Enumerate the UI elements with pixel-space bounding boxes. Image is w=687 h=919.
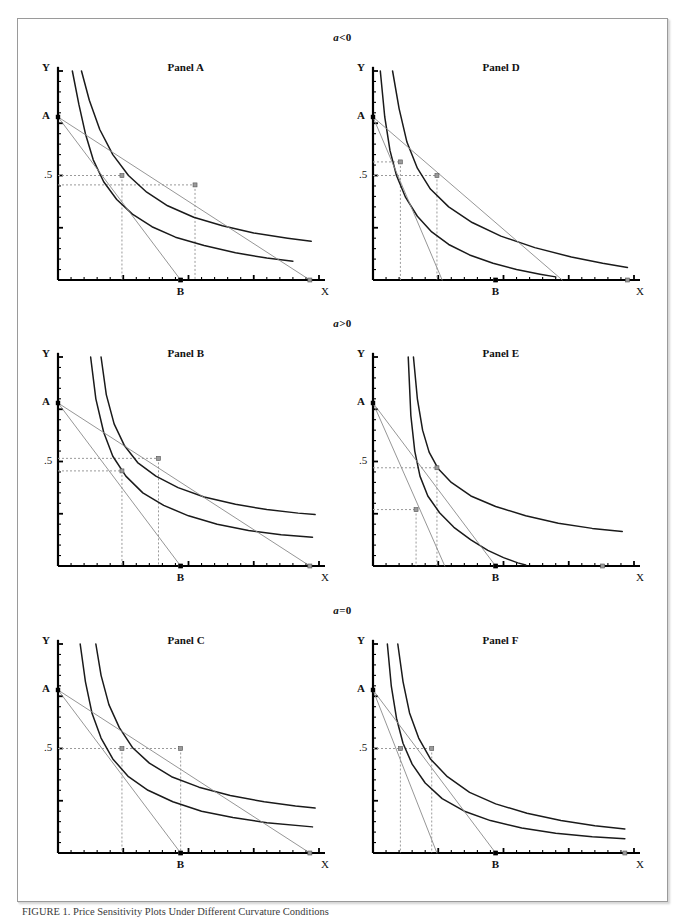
tangency-outer-marker [435,174,439,178]
endpoint-x-marker [308,851,312,855]
panel-c: Panel CYXAB.5 [28,628,333,883]
row-3-operator: = [339,604,346,616]
tangency-inner-marker [414,508,418,512]
tangency-outer-marker [193,183,197,187]
panel-a-y-axis-label: Y [42,61,50,73]
panel-c-y-axis-label: Y [42,634,50,646]
panel-e-title: Panel E [483,347,519,359]
point-b-marker [493,851,497,855]
chord-long [373,690,496,853]
curve-inner [91,357,313,537]
chord-short [58,117,181,280]
panel-b-point-b-label: B [177,571,184,583]
endpoint-x-marker [623,851,627,855]
panel-d: Panel DYXAB.5 [343,55,648,310]
row-2-value: 0 [346,317,352,329]
axes [373,67,640,280]
panel-c-point-a-label: A [42,682,50,694]
endpoint-x-marker [308,278,312,282]
row-1-value: 0 [346,31,352,43]
panel-e-ytick-label-half: .5 [359,454,367,466]
panel-d-x-axis-label: X [636,285,644,297]
axes [373,353,640,566]
endpoint-x-marker [625,278,629,282]
panel-c-ytick-label-half: .5 [44,741,52,753]
panel-e-x-axis-label: X [636,571,644,583]
axis-ticks [58,644,319,853]
panel-f-y-axis-label: Y [357,634,365,646]
panel-b-ytick-label-half: .5 [44,454,52,466]
axes [58,353,325,566]
point-a-marker [56,401,60,405]
row-condition-label-1: a<0 [18,31,667,43]
panel-e-point-b-label: B [492,571,499,583]
endpoint-x-marker [308,564,312,568]
panel-c-point-b-label: B [177,858,184,870]
point-a-marker [371,401,375,405]
panel-a: Panel AYXAB.5 [28,55,333,310]
axis-ticks [373,357,634,566]
panel-f-point-a-label: A [357,682,365,694]
point-a-marker [371,688,375,692]
panel-d-title: Panel D [483,61,520,73]
curve-outer [393,71,628,267]
axes [58,67,325,280]
curve-outer [101,357,315,515]
curve-inner [80,644,312,827]
tangency-inner-marker [398,160,402,164]
panel-d-point-a-label: A [357,109,365,121]
point-b-marker [178,278,182,282]
panel-d-y-axis-label: Y [357,61,365,73]
axes [373,640,640,853]
curve-inner [387,644,625,839]
point-a-marker [371,115,375,119]
figure-caption-text: FIGURE 1. Price Sensitivity Plots Under … [22,906,329,917]
tangency-outer-marker [179,747,183,751]
panel-a-point-b-label: B [177,285,184,297]
point-b-marker [493,278,497,282]
panel-f-ytick-label-half: .5 [359,741,367,753]
chord-long [58,690,310,853]
panel-f-x-axis-label: X [636,858,644,870]
chord-short [373,690,437,853]
panel-a-title: Panel A [168,61,204,73]
point-a-marker [56,688,60,692]
panel-f-point-b-label: B [492,858,499,870]
panel-b-point-a-label: A [42,395,50,407]
curve-outer [81,71,311,241]
endpoint-x-marker [601,564,605,568]
point-b-marker [178,851,182,855]
tangency-inner-marker [398,747,402,751]
panel-f-title: Panel F [483,634,519,646]
panel-e: Panel EYXAB.5 [343,341,648,596]
panel-a-ytick-label-half: .5 [44,168,52,180]
panel-f: Panel FYXAB.5 [343,628,648,883]
panel-c-x-axis-label: X [321,858,329,870]
tangency-outer-marker [435,466,439,470]
tangency-inner-marker [120,469,124,473]
axes [58,640,325,853]
axis-ticks [58,71,319,280]
panel-c-title: Panel C [168,634,205,646]
figure-frame: a<0 a>0 a=0 Panel AYXAB.5Panel DYXAB.5Pa… [17,18,668,902]
tangency-outer-marker [156,456,160,460]
axis-ticks [373,644,634,853]
chord-long [58,117,310,280]
chord-short [58,403,181,566]
tangency-inner-marker [120,747,124,751]
figure-caption: FIGURE 1. Price Sensitivity Plots Under … [22,906,662,919]
tangency-inner-marker [120,174,124,178]
row-1-operator: < [339,31,346,43]
chord-long [373,117,562,280]
panel-a-point-a-label: A [42,109,50,121]
chord-long [58,403,310,566]
curve-inner [72,71,293,261]
panel-a-x-axis-label: X [321,285,329,297]
point-a-marker [56,115,60,119]
row-condition-label-3: a=0 [18,604,667,616]
panel-b-title: Panel B [168,347,204,359]
panel-e-y-axis-label: Y [357,347,365,359]
chord-short [373,117,442,280]
point-b-marker [178,564,182,568]
point-b-marker [493,564,497,568]
